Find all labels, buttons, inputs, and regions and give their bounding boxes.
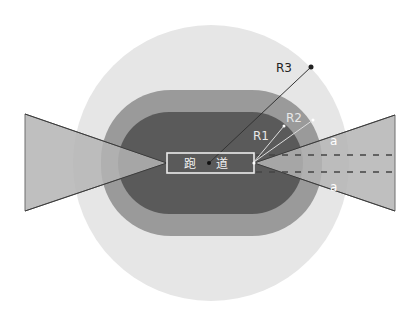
r1-label: R1 [253,129,269,143]
r2-label: R2 [286,111,302,125]
runway-center-dot [207,161,211,165]
r3-endpoint-dot [309,65,314,70]
runway-end-dot [252,161,255,164]
airport-protection-zone-diagram: 跑 道 R3 R2 R1 a a [0,0,417,324]
r3-label: R3 [276,61,292,75]
r2-endpoint-dot [312,119,315,122]
runway-label-char1: 跑 [184,157,196,171]
runway-label-char2: 道 [216,157,228,171]
upper-angle-label: a [330,134,337,148]
lower-angle-label: a [330,180,337,194]
